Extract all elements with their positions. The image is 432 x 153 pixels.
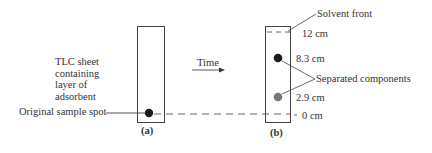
panel-a-caption: (a) (141, 125, 153, 136)
distance-component-1: 8.3 cm (296, 53, 325, 65)
separated-component-2-spot (274, 93, 283, 102)
distance-origin: 0 cm (302, 110, 323, 122)
distance-component-2: 2.9 cm (296, 92, 325, 104)
original-sample-spot-label: Original sample spot (19, 106, 107, 118)
distance-solvent-front: 12 cm (302, 28, 328, 40)
tlc-sheet-label-line-1: TLC sheet (55, 56, 99, 68)
separated-components-label: Separated components (316, 73, 411, 85)
original-sample-spot (145, 109, 153, 117)
tlc-sheet-b (266, 27, 291, 123)
separated-component-1-spot (274, 54, 283, 63)
time-label: Time (197, 57, 219, 69)
time-arrow-head (219, 68, 225, 73)
tlc-sheet-label-line-3: layer of (55, 79, 99, 91)
panel-b-caption: (b) (270, 127, 283, 138)
tlc-sheet-a (138, 27, 165, 123)
solvent-front-label: Solvent front (317, 8, 372, 20)
tlc-sheet-label-line-4: adsorbent (55, 91, 99, 103)
tlc-sheet-label-line-2: containing (55, 68, 99, 80)
tlc-sheet-label: TLC sheet containing layer of adsorbent (55, 56, 99, 102)
